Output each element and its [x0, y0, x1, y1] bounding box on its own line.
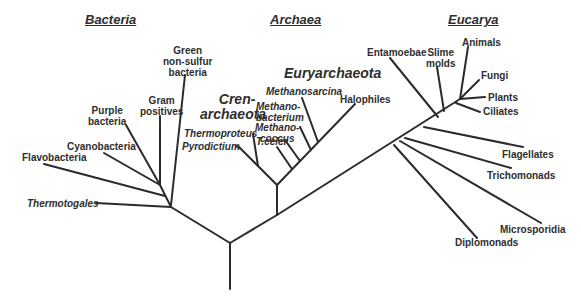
domain-title-bacteria: Bacteria [85, 12, 136, 27]
label-thermoproteus: Thermoproteus [184, 128, 257, 139]
flagellates-branch [424, 127, 523, 147]
group-title-euryarchaeota: Euryarchaeota [284, 66, 381, 81]
purple-line2: bacteria [88, 116, 126, 127]
label-entamoebae: Entamoebae [367, 47, 426, 58]
green-line2: non-sulfur [163, 56, 212, 67]
label-thermotogales: Thermotogales [27, 198, 99, 209]
label-microsporidia: Microsporidia [500, 224, 566, 235]
archaea-eucarya-stem [230, 215, 277, 243]
slime-line2: molds [426, 58, 455, 69]
green-line3: bacteria [163, 67, 212, 78]
slime-line1: Slime [426, 47, 455, 58]
label-pyrodictium: Pyrodictium [182, 141, 240, 152]
label-ciliates: Ciliates [483, 106, 519, 117]
domain-title-archaea: Archaea [270, 12, 321, 27]
label-flavobacteria: Flavobacteria [22, 152, 86, 163]
domain-title-eucarya: Eucarya [448, 12, 499, 27]
ciliates-branch [456, 103, 480, 112]
green-line1: Green [163, 45, 212, 56]
label-cyanobacteria: Cyanobacteria [67, 141, 136, 152]
purple-line1: Purple [88, 105, 126, 116]
label-green-nonsulfur-bacteria: Green non-sulfur bacteria [163, 45, 212, 78]
gram-line1: Gram [140, 95, 183, 106]
thermotogales-branch [96, 203, 171, 207]
methanococcus-line1: Methano- [255, 122, 299, 133]
flavobacteria-branch [44, 164, 165, 196]
plants-branch [460, 97, 485, 99]
label-slime-molds: Slime molds [426, 47, 455, 69]
label-methanobacterium: Methano- bacterium [256, 101, 304, 123]
label-animals: Animals [462, 37, 501, 48]
methanobacterium-line1: Methano- [256, 101, 304, 112]
label-halophiles: Halophiles [340, 94, 391, 105]
label-diplomonads: Diplomonads [455, 237, 518, 248]
gram-line2: positives [140, 106, 183, 117]
slime-molds-branch [437, 67, 444, 111]
diplomonads-branch [394, 145, 477, 238]
t-celer-branch [277, 147, 292, 169]
label-fungi: Fungi [481, 70, 508, 81]
label-gram-positives: Gram positives [140, 95, 183, 117]
label-t-celer: T.celer [256, 136, 288, 147]
label-flagellates: Flagellates [502, 149, 554, 160]
label-trichomonads: Trichomonads [487, 170, 555, 181]
label-methanosarcina: Methanosarcina [266, 86, 342, 97]
label-plants: Plants [488, 92, 518, 103]
bacteria-stem [171, 207, 230, 243]
methanobacterium-branch [300, 127, 311, 150]
label-purple-bacteria: Purple bacteria [88, 105, 126, 127]
